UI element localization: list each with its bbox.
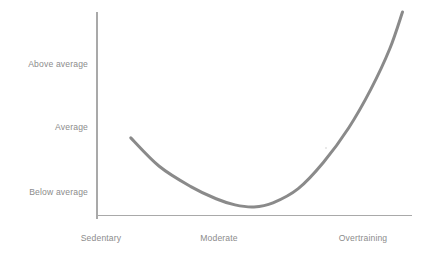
image-artifact-speck bbox=[325, 147, 327, 149]
y-axis-tick-label-above-average: Above average bbox=[4, 59, 88, 69]
y-axis-labels: Above average Average Below average bbox=[0, 0, 88, 262]
x-axis-tick-label-sedentary: Sedentary bbox=[81, 233, 122, 243]
data-series-curve bbox=[131, 12, 403, 207]
y-axis-tick-label-below-average: Below average bbox=[4, 187, 88, 197]
y-axis-line bbox=[96, 12, 98, 219]
chart-container: Above average Average Below average Sede… bbox=[0, 0, 438, 262]
y-axis-tick-label-average: Average bbox=[4, 122, 88, 132]
x-axis-tick-label-overtraining: Overtraining bbox=[339, 233, 388, 243]
x-axis-line bbox=[96, 215, 412, 216]
x-axis-tick-label-moderate: Moderate bbox=[200, 233, 238, 243]
